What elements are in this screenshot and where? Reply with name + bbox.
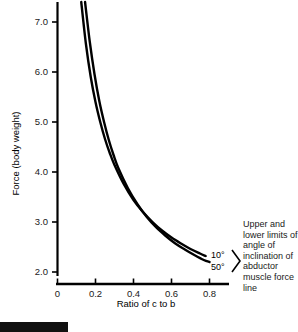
y-tick-label-5: 5.0 <box>24 116 48 127</box>
bracket-icon <box>232 250 240 272</box>
y-tick-label-7: 7.0 <box>24 16 48 27</box>
x-tick-label-0: 0 <box>46 288 70 299</box>
page-artifact-bar <box>0 322 68 332</box>
annotation-text: Upper and lower limits of angle of incli… <box>243 219 298 293</box>
y-tick-label-2: 2.0 <box>24 266 48 277</box>
curve-label-50-degrees: 50° <box>211 262 225 272</box>
curve-label-10-degrees: 10° <box>211 250 225 260</box>
y-tick-label-6: 6.0 <box>24 66 48 77</box>
x-axis-title: Ratio of c to b <box>88 298 204 309</box>
figure-container: 7.0 6.0 5.0 4.0 3.0 2.0 0 0.2 0.4 0.6 0.… <box>0 0 298 332</box>
curve-10-degrees <box>81 2 205 256</box>
y-tick-label-4: 4.0 <box>24 166 48 177</box>
y-axis-title: Force (body weight) <box>10 94 21 214</box>
y-tick-label-3: 3.0 <box>24 216 48 227</box>
